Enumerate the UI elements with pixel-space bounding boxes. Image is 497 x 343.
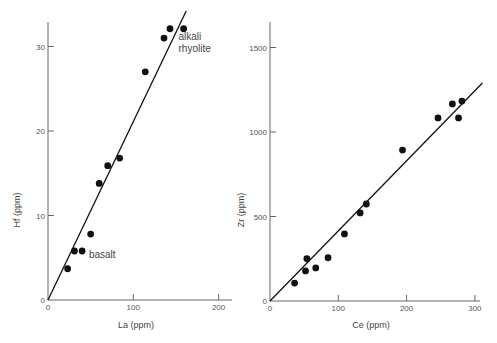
data-point <box>312 264 319 271</box>
data-point <box>357 210 364 217</box>
y-tick-label: 30 <box>36 43 45 52</box>
data-point <box>302 268 309 275</box>
x-tick-label: 0 <box>46 303 51 312</box>
y-axis-title: Hf (ppm) <box>12 192 22 227</box>
x-tick-label: 0 <box>268 304 273 313</box>
y-tick-label: 10 <box>36 212 45 221</box>
data-point <box>96 180 103 187</box>
scatter-panel-1: 01020300100200La (ppm)Hf (ppm)basaltalka… <box>12 11 232 330</box>
data-point <box>79 248 86 255</box>
data-point <box>71 248 78 255</box>
x-tick-label: 300 <box>468 304 482 313</box>
y-axis-title: Zr (ppm) <box>236 193 246 228</box>
scatter-panel-2: 0500100015000100200300Ce (ppm)Zr (ppm) <box>236 22 482 330</box>
data-point <box>325 254 332 261</box>
annotation-label: basalt <box>89 249 116 260</box>
regression-line <box>270 83 482 301</box>
data-point <box>87 231 94 238</box>
regression-line <box>48 11 186 300</box>
y-tick-label: 20 <box>36 127 45 136</box>
y-tick-label: 500 <box>254 213 268 222</box>
data-point <box>161 35 168 42</box>
data-point <box>341 231 348 238</box>
data-point <box>449 101 456 108</box>
y-tick-label: 1500 <box>249 44 267 53</box>
data-point <box>399 147 406 154</box>
chart-area: 01020300100200La (ppm)Hf (ppm)basaltalka… <box>0 0 497 343</box>
data-point <box>167 25 174 32</box>
data-point <box>455 115 462 122</box>
data-point <box>116 155 123 162</box>
data-point <box>459 98 466 105</box>
data-point <box>104 162 111 169</box>
x-tick-label: 100 <box>127 303 141 312</box>
x-tick-label: 200 <box>400 304 414 313</box>
data-point <box>435 115 442 122</box>
data-point <box>291 280 298 287</box>
y-tick-label: 1000 <box>249 128 267 137</box>
x-tick-label: 100 <box>332 304 346 313</box>
annotation-label: alkali <box>179 31 202 42</box>
data-point <box>64 265 71 272</box>
x-axis-title: Ce (ppm) <box>352 320 390 330</box>
annotation-label: rhyolite <box>179 43 212 54</box>
x-axis-title: La (ppm) <box>118 320 154 330</box>
data-point <box>363 201 370 208</box>
x-tick-label: 200 <box>212 303 226 312</box>
data-point <box>303 255 310 262</box>
data-point <box>142 68 149 75</box>
